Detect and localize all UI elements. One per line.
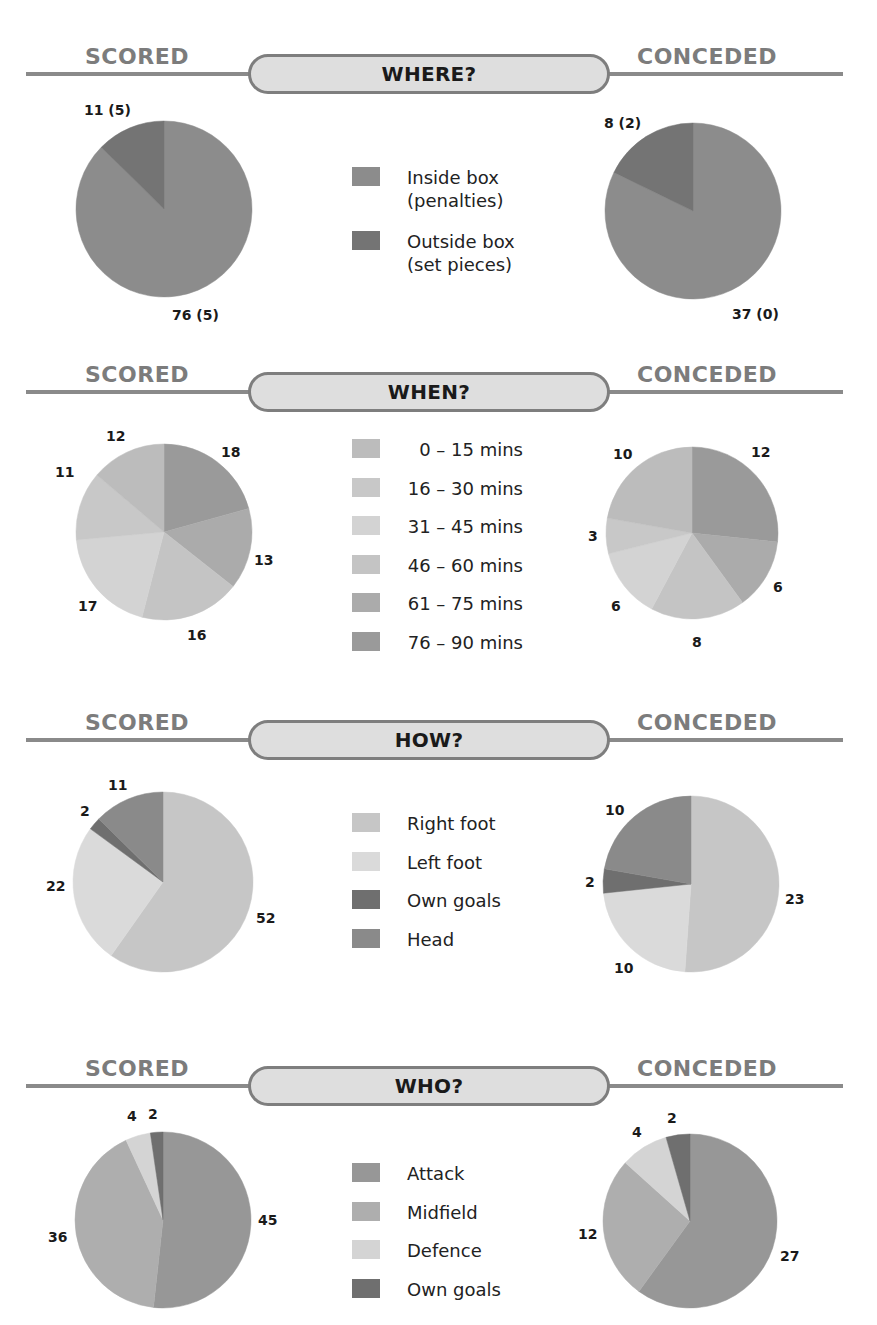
conceded-slice-value-label: 2 [667, 1110, 677, 1126]
pie-slice-attack [153, 1132, 251, 1308]
header-rule-left [26, 1084, 250, 1088]
legend-label: Midfield [407, 1201, 478, 1224]
conceded-slice-value-label: 6 [773, 579, 783, 595]
legend-label: 16 – 30 mins [407, 477, 523, 500]
legend-swatch [352, 231, 380, 250]
conceded-slice-value-label: 10 [614, 960, 633, 976]
legend-label: Head [407, 928, 454, 951]
scored-slice-value-label: 17 [78, 598, 97, 614]
section-title-text: HOW? [395, 728, 464, 752]
conceded-slice-value-label: 23 [785, 891, 804, 907]
conceded-slice-value-label: 12 [578, 1226, 597, 1242]
legend-swatch [352, 890, 380, 909]
scored-slice-value-label: 4 [127, 1108, 137, 1124]
scored-slice-value-label: 16 [187, 627, 206, 643]
legend-swatch [352, 516, 380, 535]
legend-item: Own goals [352, 889, 501, 912]
legend-item: Left foot [352, 851, 482, 874]
pie-slice-right-foot [685, 796, 779, 972]
scored-slice-value-label: 11 [55, 464, 74, 480]
conceded-slice-value-label: 3 [588, 528, 598, 544]
scored-heading: SCORED [85, 362, 189, 387]
scored-slice-value-label: 2 [148, 1106, 158, 1122]
legend-item: 16 – 30 mins [352, 477, 523, 500]
conceded-pie-chart [601, 1132, 779, 1310]
legend-item: 46 – 60 mins [352, 554, 523, 577]
section-title-where: WHERE? [248, 54, 610, 94]
legend-item: Midfield [352, 1201, 478, 1224]
legend-item: Attack [352, 1162, 464, 1185]
scored-slice-value-label: 22 [46, 878, 65, 894]
legend-label: Attack [407, 1162, 464, 1185]
scored-slice-value-label: 13 [254, 552, 273, 568]
conceded-slice-value-label: 8 (2) [604, 115, 641, 131]
legend-swatch [352, 439, 380, 458]
scored-pie-chart [73, 1130, 253, 1310]
scored-pie-chart [71, 790, 255, 974]
legend-swatch [352, 852, 380, 871]
scored-slice-value-label: 45 [258, 1212, 277, 1228]
conceded-slice-value-label: 2 [585, 874, 595, 890]
legend-label: 46 – 60 mins [407, 554, 523, 577]
legend-swatch [352, 478, 380, 497]
legend-swatch [352, 167, 380, 186]
legend-swatch [352, 1202, 380, 1221]
pie-slice-76-90-mins [692, 447, 778, 542]
scored-slice-value-label: 52 [256, 910, 275, 926]
legend-swatch [352, 929, 380, 948]
legend-item: 76 – 90 mins [352, 631, 523, 654]
scored-heading: SCORED [85, 44, 189, 69]
legend-item: 31 – 45 mins [352, 515, 523, 538]
legend-swatch [352, 593, 380, 612]
legend-label: Right foot [407, 812, 496, 835]
legend-item: Head [352, 928, 454, 951]
scored-slice-value-label: 18 [221, 444, 240, 460]
legend-label: 76 – 90 mins [407, 631, 523, 654]
legend-label: Inside box (penalties) [407, 166, 504, 212]
scored-heading: SCORED [85, 1056, 189, 1081]
legend-swatch [352, 813, 380, 832]
conceded-pie-chart [603, 121, 783, 301]
header-rule-right [608, 390, 843, 394]
conceded-heading: CONCEDED [637, 44, 777, 69]
legend-item: Own goals [352, 1278, 501, 1301]
header-rule-right [608, 1084, 843, 1088]
scored-pie-chart [74, 119, 254, 299]
conceded-slice-value-label: 27 [780, 1248, 799, 1264]
conceded-slice-value-label: 37 (0) [732, 306, 779, 322]
scored-slice-value-label: 12 [106, 428, 125, 444]
legend-swatch [352, 1163, 380, 1182]
scored-slice-value-label: 11 [108, 777, 127, 793]
legend-label: Left foot [407, 851, 482, 874]
conceded-slice-value-label: 6 [611, 598, 621, 614]
scored-pie-chart [74, 442, 254, 622]
section-title-how: HOW? [248, 720, 610, 760]
legend-item: Inside box (penalties) [352, 166, 504, 212]
header-rule-right [608, 738, 843, 742]
legend-swatch [352, 632, 380, 651]
legend-item: Right foot [352, 812, 496, 835]
scored-heading: SCORED [85, 710, 189, 735]
scored-slice-value-label: 76 (5) [172, 307, 219, 323]
scored-slice-value-label: 11 (5) [84, 102, 131, 118]
section-title-text: WHERE? [382, 62, 477, 86]
legend-item: 0 – 15 mins [352, 438, 523, 461]
scored-slice-value-label: 2 [80, 803, 90, 819]
section-title-who: WHO? [248, 1066, 610, 1106]
conceded-slice-value-label: 12 [751, 444, 770, 460]
conceded-slice-value-label: 8 [692, 634, 702, 650]
section-title-text: WHEN? [388, 380, 470, 404]
conceded-slice-value-label: 10 [613, 446, 632, 462]
conceded-heading: CONCEDED [637, 1056, 777, 1081]
legend-label: 31 – 45 mins [407, 515, 523, 538]
legend-swatch [352, 1240, 380, 1259]
section-title-text: WHO? [395, 1074, 464, 1098]
conceded-pie-chart [601, 794, 781, 974]
legend-label: Own goals [407, 889, 501, 912]
conceded-slice-value-label: 4 [632, 1124, 642, 1140]
pie-slice-left-foot [603, 884, 691, 972]
header-rule-left [26, 390, 250, 394]
legend-item: 61 – 75 mins [352, 592, 523, 615]
header-rule-left [26, 738, 250, 742]
legend-item: Outside box (set pieces) [352, 230, 515, 276]
